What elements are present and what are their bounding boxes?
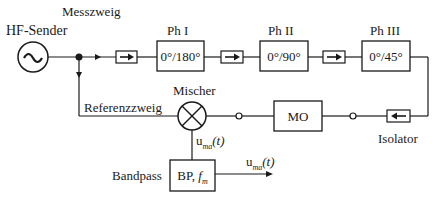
isolator-label: Isolator [378,132,418,145]
bp-output-signal-label: uma(t) [246,155,275,172]
messzweig-label: Messzweig [62,5,121,18]
mixer-output-signal-label: uma(t) [196,134,225,151]
ph2-value: 0°/90° [260,50,308,63]
bp-block-label: BP, fm [170,169,215,186]
bandpass-label: Bandpass [112,169,162,182]
mischer-label: Mischer [173,84,216,97]
ph3-title: Ph III [370,24,400,37]
junction-dot [76,54,83,61]
ph1-value: 0°/180° [157,50,204,63]
ph3-value: 0°/45° [362,50,410,63]
mo-block-label: MO [274,110,322,123]
ph2-title: Ph II [268,24,294,37]
ph1-title: Ph I [167,24,188,37]
hf-sender-label: HF-Sender [6,24,67,38]
referenzzweig-label: Referenzzweig [84,101,162,114]
